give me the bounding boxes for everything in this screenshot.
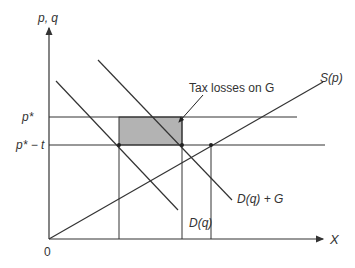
- origin-label: 0: [44, 245, 51, 259]
- tax-losses-diagram: p, q X 0 p* p* − t S(p) D(q) D(q) + G Ta…: [0, 0, 355, 268]
- intersection-dot: [117, 143, 121, 147]
- diagram-canvas: p, q X 0 p* p* − t S(p) D(q) D(q) + G Ta…: [0, 0, 355, 268]
- demand-plus-g-curve-label: D(q) + G: [237, 192, 283, 206]
- demand-curve-label: D(q): [189, 216, 212, 230]
- supply-curve-line: [49, 82, 323, 239]
- price-p-star-minus-t-label: p* − t: [15, 138, 45, 152]
- intersection-dot: [180, 143, 184, 147]
- y-axis-label: p, q: [37, 11, 58, 25]
- x-axis-label: X: [329, 232, 340, 247]
- supply-curve-label: S(p): [320, 71, 343, 85]
- annotation-arrow: [179, 95, 203, 122]
- tax-loss-region: [119, 117, 182, 145]
- tax-losses-annotation: Tax losses on G: [189, 81, 274, 95]
- price-p-star-label: p*: [21, 110, 34, 124]
- intersection-dot: [209, 143, 213, 147]
